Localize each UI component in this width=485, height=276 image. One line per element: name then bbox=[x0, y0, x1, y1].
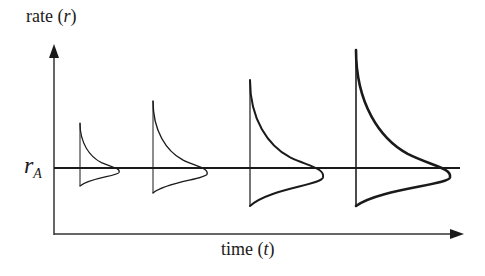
rate-spike-curve bbox=[80, 123, 119, 186]
rate-spike-curve bbox=[153, 101, 207, 193]
rate-spikes-diagram bbox=[0, 0, 485, 276]
spike-group bbox=[80, 50, 450, 206]
y-axis-arrowhead-icon bbox=[49, 44, 59, 58]
rate-spike-curve bbox=[356, 50, 450, 206]
rate-spike-curve bbox=[250, 80, 323, 206]
x-axis-arrowhead-icon bbox=[450, 229, 464, 239]
